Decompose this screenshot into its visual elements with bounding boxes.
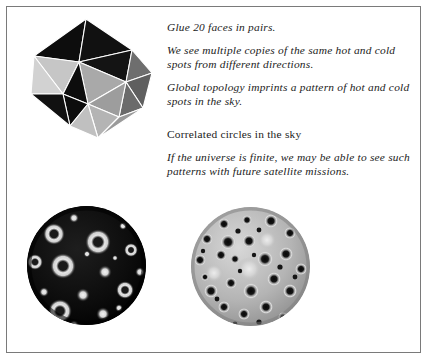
cmb-sphere-light bbox=[191, 207, 310, 326]
icosahedron-svg bbox=[26, 16, 154, 142]
slide-page: Glue 20 faces in pairs. We see multiple … bbox=[0, 0, 429, 361]
cmb-sphere-dark bbox=[27, 206, 146, 325]
text-line-multiple-copies: We see multiple copies of the same hot a… bbox=[167, 43, 413, 71]
text-line-glue-faces: Glue 20 faces in pairs. bbox=[167, 20, 413, 34]
icosa-face bbox=[34, 19, 86, 62]
cmb-sphere-dark-svg bbox=[27, 206, 146, 325]
cmb-sphere-dark-content bbox=[27, 206, 146, 325]
text-heading-correlated-circles: Correlated circles in the sky bbox=[167, 127, 413, 141]
cmb-sphere-light-svg bbox=[191, 207, 310, 326]
text-line-global-topology: Global topology imprints a pattern of ho… bbox=[167, 80, 413, 108]
icosahedron-figure bbox=[26, 16, 154, 142]
text-block: Glue 20 faces in pairs. We see multiple … bbox=[167, 20, 413, 178]
cmb-sphere-light-content bbox=[191, 207, 310, 326]
text-line-finite-universe: If the universe is finite, we may be abl… bbox=[167, 150, 413, 178]
icosa-face bbox=[31, 94, 70, 126]
